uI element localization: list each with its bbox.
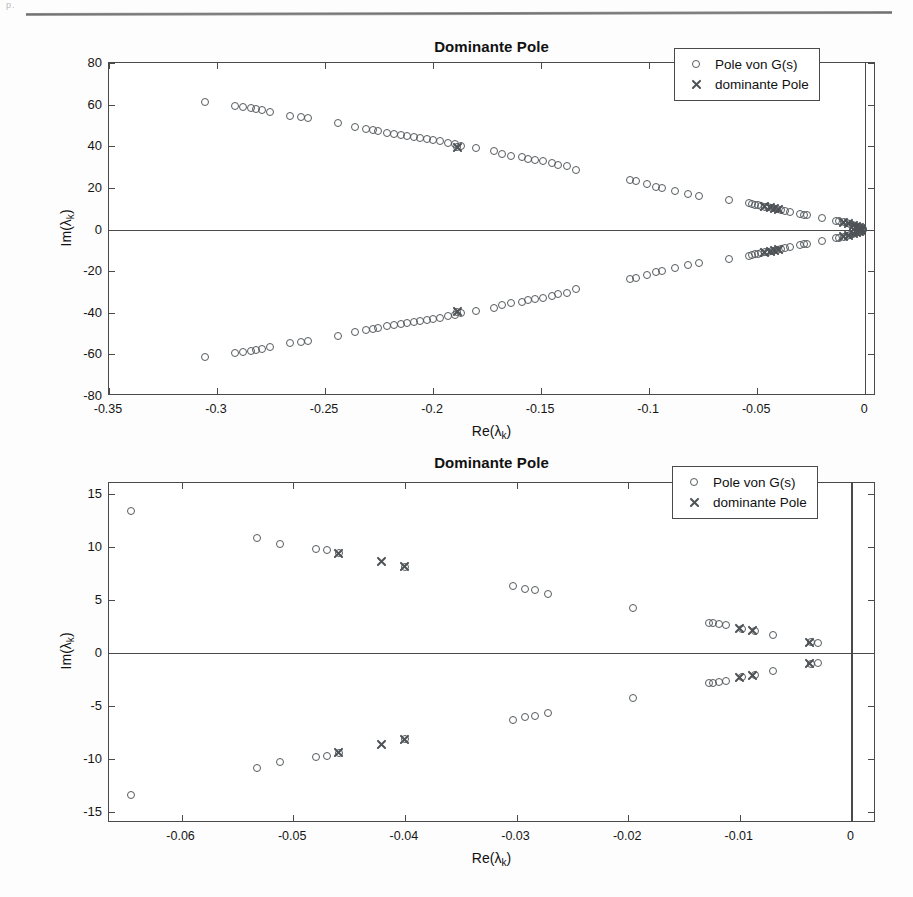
zero-line-horizontal — [109, 230, 874, 231]
data-point-pole — [423, 316, 431, 324]
data-point-pole — [629, 604, 637, 612]
chart-legend[interactable]: Pole von G(s) dominante Pole — [672, 466, 818, 519]
data-point-pole — [781, 244, 789, 252]
data-point-dominant-pole — [747, 670, 758, 681]
y-tick — [868, 354, 874, 355]
data-point-pole — [725, 196, 733, 204]
legend-label: Pole von G(s) — [707, 475, 796, 490]
y-tick — [109, 812, 115, 813]
data-point-pole — [509, 716, 517, 724]
legend-item-dominante-pole[interactable]: dominante Pole — [681, 492, 807, 512]
data-point-pole — [444, 312, 452, 320]
y-tick — [868, 230, 874, 231]
y-tick — [868, 494, 874, 495]
legend-item-pole-von-gs[interactable]: Pole von G(s) — [683, 54, 809, 74]
data-point-pole — [323, 752, 331, 760]
data-point-pole — [351, 123, 359, 131]
data-point-pole — [803, 240, 811, 248]
data-point-pole — [769, 667, 777, 675]
x-tick-label: -0.01 — [725, 829, 754, 843]
plot-area[interactable] — [108, 482, 875, 822]
data-point-dominant-pole — [399, 734, 410, 745]
y-tick — [109, 600, 115, 601]
data-point-pole — [312, 545, 320, 553]
data-point-pole — [127, 791, 135, 799]
x-tick — [325, 388, 326, 394]
x-tick-label: 0 — [847, 829, 854, 843]
data-point-pole — [786, 208, 794, 216]
data-point-pole — [745, 199, 753, 207]
data-point-pole — [266, 343, 274, 351]
data-point-pole — [304, 337, 312, 345]
subscript-k: k — [65, 214, 76, 219]
data-point-pole — [777, 206, 785, 214]
x-tick — [109, 388, 110, 394]
data-point-dominant-pole — [804, 658, 815, 669]
x-tick — [293, 483, 294, 489]
data-point-dominant-pole — [747, 625, 758, 636]
data-point-dominant-pole — [759, 247, 770, 258]
legend-item-pole-von-gs[interactable]: Pole von G(s) — [681, 472, 807, 492]
subscript-k: k — [501, 857, 506, 868]
data-point-pole — [323, 546, 331, 554]
data-point-pole — [490, 147, 498, 155]
x-axis-label: Re(λk) — [108, 850, 875, 868]
y-tick-label: 40 — [60, 138, 102, 153]
y-tick — [109, 547, 115, 548]
data-point-dominant-pole — [773, 244, 784, 255]
data-point-pole — [563, 162, 571, 170]
data-point-pole — [626, 176, 634, 184]
x-tick-label: -0.2 — [421, 402, 443, 416]
data-point-pole — [840, 218, 848, 226]
x-tick — [541, 388, 542, 394]
data-point-pole — [751, 627, 759, 635]
data-point-pole — [643, 271, 651, 279]
data-point-dominant-pole — [804, 637, 815, 648]
data-point-pole — [671, 187, 679, 195]
data-point-pole — [764, 248, 772, 256]
data-point-pole — [390, 130, 398, 138]
y-tick — [868, 759, 874, 760]
legend-cross-icon — [683, 75, 709, 93]
x-tick — [757, 388, 758, 394]
scatter-surface — [109, 483, 874, 821]
data-point-pole — [369, 126, 377, 134]
data-point-pole — [807, 638, 815, 646]
x-tick — [182, 483, 183, 489]
data-point-pole — [231, 349, 239, 357]
data-point-pole — [451, 140, 459, 148]
legend-item-dominante-pole[interactable]: dominante Pole — [683, 74, 809, 94]
data-point-pole — [722, 677, 730, 685]
y-tick-label: -40 — [60, 304, 102, 319]
x-tick — [865, 63, 866, 69]
data-point-pole — [773, 246, 781, 254]
y-tick — [868, 653, 874, 654]
scatter-surface — [109, 63, 874, 394]
data-point-dominant-pole — [452, 306, 463, 317]
data-point-pole — [695, 259, 703, 267]
data-point-dominant-pole — [843, 218, 854, 229]
y-tick — [109, 230, 115, 231]
data-point-pole — [757, 249, 765, 257]
data-point-pole — [335, 549, 343, 557]
zero-line-vertical — [851, 483, 852, 821]
data-point-pole — [423, 135, 431, 143]
x-tick — [851, 483, 852, 489]
data-point-pole — [507, 299, 515, 307]
data-point-pole — [832, 234, 840, 242]
data-point-pole — [429, 315, 437, 323]
data-point-pole — [745, 252, 753, 260]
data-point-pole — [383, 129, 391, 137]
figure-dominante-pole-overview: Dominante Pole -0.35-0.3-0.25-0.2-0.15-0… — [0, 34, 913, 454]
data-point-pole — [444, 139, 452, 147]
data-point-pole — [521, 713, 529, 721]
data-point-pole — [764, 203, 772, 211]
data-point-pole — [738, 625, 746, 633]
y-tick — [109, 354, 115, 355]
data-point-pole — [201, 98, 209, 106]
chart-legend[interactable]: Pole von G(s) dominante Pole — [674, 48, 820, 101]
data-point-pole — [715, 620, 723, 628]
plot-area[interactable] — [108, 62, 875, 395]
data-point-pole — [524, 155, 532, 163]
data-point-dominant-pole — [734, 672, 745, 683]
